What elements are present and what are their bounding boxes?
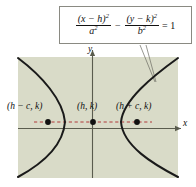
x-axis-label: x — [183, 118, 187, 128]
equation-tail: = 1 — [162, 20, 175, 31]
right-focus-label: (h + c, k) — [116, 101, 151, 111]
left-branch-curve — [18, 58, 65, 177]
left-focus-dot — [45, 119, 51, 125]
equation-left-numerator-exponent: 2 — [106, 12, 109, 19]
left-focus-label: (h − c, k) — [7, 101, 42, 111]
x-axis-arrowhead — [175, 126, 181, 131]
equation-left-fraction: (x − h)2 a2 — [76, 14, 111, 36]
axis-arrowheads — [90, 50, 181, 131]
equation-content: (x − h)2 a2 − (y − k)2 b2 = 1 — [60, 7, 191, 43]
y-axis-label: y — [88, 44, 92, 54]
equation-right-fraction: (y − k)2 b2 — [125, 14, 160, 36]
equation-callout-box: (x − h)2 a2 − (y − k)2 b2 = 1 — [59, 6, 192, 44]
right-branch-curve — [121, 58, 178, 177]
axes — [18, 50, 181, 178]
equation-left-denominator: a2 — [87, 26, 99, 37]
center-dot — [90, 119, 96, 125]
equation-right-denominator: b2 — [136, 26, 148, 37]
hyperbola-branches — [18, 58, 178, 177]
right-focus-dot — [134, 119, 140, 125]
center-label: (h, k) — [77, 101, 97, 111]
equation-right-numerator-exponent: 2 — [154, 12, 157, 19]
hyperbola-figure: (x − h)2 a2 − (y − k)2 b2 = 1 (h − c, k)… — [0, 0, 196, 187]
equation-right-denominator-exponent: 2 — [143, 23, 146, 30]
equation-left-denominator-exponent: 2 — [94, 23, 97, 30]
equation-minus-operator: − — [114, 20, 122, 31]
